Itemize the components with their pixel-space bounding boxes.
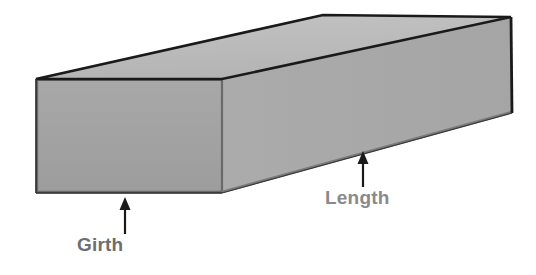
length-arrow — [358, 151, 369, 187]
box-outline-right-vertical — [511, 17, 512, 113]
length-label: Length — [325, 187, 390, 209]
box-diagram: Girth Length — [0, 0, 536, 275]
girth-label: Girth — [77, 234, 123, 256]
girth-arrow — [120, 197, 131, 234]
box-front-face — [36, 79, 222, 193]
